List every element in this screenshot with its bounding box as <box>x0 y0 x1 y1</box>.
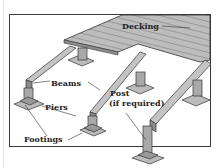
label-piers: Piers <box>45 102 68 112</box>
pier-footing-1 <box>14 88 44 110</box>
pier-footing-2 <box>80 116 106 136</box>
label-footings: Footings <box>24 134 63 144</box>
pier-footing-3 <box>132 126 164 164</box>
label-beams: Beams <box>51 78 82 88</box>
deck-diagram: Decking Beams Piers Post (if required) F… <box>0 0 222 168</box>
label-decking: Decking <box>122 21 159 31</box>
label-post-note: (if required) <box>109 98 165 108</box>
pier-footing-5 <box>126 72 154 94</box>
label-post: Post <box>110 88 130 98</box>
